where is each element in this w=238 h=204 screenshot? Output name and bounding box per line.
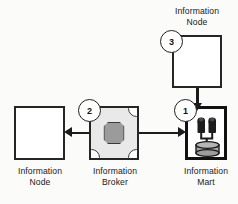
step-circle-3[interactable]: 3 [160,30,183,53]
information-mart-label: Information Mart [170,166,238,187]
broker-corner-br-icon [128,149,139,160]
arrow-broker-to-node-head [64,127,72,137]
information-node-left-label: Information Node [4,166,76,187]
information-node-top-label: Information Node [159,6,235,27]
arrow-broker-to-mart-line [139,132,178,135]
diagram-canvas: Information Node 3 Information Node Info… [0,0,238,204]
information-broker-label: Information Broker [79,166,151,187]
broker-puzzle-icon [104,122,125,144]
step-circle-2[interactable]: 2 [78,99,101,122]
arrow-broker-to-mart-head [178,127,186,137]
step-circle-1[interactable]: 1 [174,99,197,122]
information-node-left-box[interactable] [14,106,65,160]
arrow-broker-to-node-line [72,132,89,135]
